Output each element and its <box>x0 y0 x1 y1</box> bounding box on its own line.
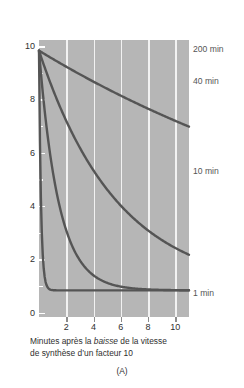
y-tick-label-8: 8 <box>30 94 35 104</box>
x-axis-title-part2: de la vitesse <box>118 336 167 346</box>
x-tick-label-4: 4 <box>91 322 96 332</box>
curve-10-min <box>39 51 189 291</box>
series-label-200-min: 200 min <box>193 44 224 54</box>
curve-40-min <box>39 51 189 255</box>
x-tick-label-6: 6 <box>118 322 123 332</box>
curve-1-min <box>39 51 189 291</box>
x-axis-title-line2: de synthèse d’un facteur 10 <box>30 348 133 358</box>
y-tick-label-0: 0 <box>30 308 35 318</box>
series-label-10-min: 10 min <box>193 166 219 176</box>
y-tick-label-2: 2 <box>30 254 35 264</box>
series-label-40-min: 40 min <box>193 76 219 86</box>
x-tick-label-8: 8 <box>146 322 151 332</box>
decay-curves <box>39 40 189 317</box>
y-tick-label-4: 4 <box>30 201 35 211</box>
y-tick-label-10: 10 <box>25 41 35 51</box>
y-tick-label-6: 6 <box>30 148 35 158</box>
figure-panel-a: Concentration relative des molécules int… <box>0 0 244 388</box>
series-label-1-min: 1 min <box>193 288 214 298</box>
x-tick-label-2: 2 <box>64 322 69 332</box>
x-axis-title: Minutes après la baisse de la vitesse de… <box>30 336 220 359</box>
panel-letter: (A) <box>0 366 244 376</box>
x-axis-title-emphasis: baisse <box>94 336 118 346</box>
x-axis-title-part1: Minutes après la <box>30 336 94 346</box>
x-tick-label-10: 10 <box>170 322 180 332</box>
curve-200-min <box>39 51 189 127</box>
plot-area: 10 8 6 4 2 0 2 4 6 8 10 <box>39 40 189 317</box>
